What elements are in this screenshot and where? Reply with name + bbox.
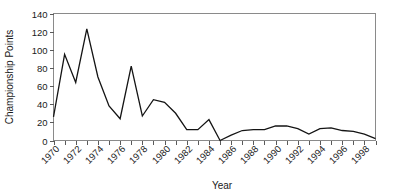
x-tick-label: 1988 [238,143,261,166]
x-tick-label: 1996 [327,143,350,166]
y-axis-title: Championship Points [4,30,15,125]
x-tick-label: 1984 [194,143,217,166]
x-tick-label: 1974 [83,143,106,166]
x-tick-label: 1994 [305,143,328,166]
y-tick-label: 20 [37,117,48,128]
y-tick-label: 100 [32,45,48,56]
x-tick-label: 1978 [127,143,150,166]
y-axis-tick-labels: 020406080100120140 [32,9,48,147]
x-tick-label: 1980 [150,143,173,166]
y-tick-label: 140 [32,9,48,20]
y-tick-label: 0 [42,136,47,147]
x-axis-title: Year [212,180,233,191]
line-chart: 020406080100120140 197019721974197619781… [0,0,399,196]
y-tick-label: 40 [37,99,48,110]
chart-container: 020406080100120140 197019721974197619781… [0,0,399,196]
x-tick-label: 1990 [261,143,284,166]
x-tick-label: 1998 [349,143,372,166]
x-tick-label: 1976 [105,143,128,166]
x-axis-tick-labels: 1970197219741976197819801982198419861988… [39,143,372,166]
data-series-line [54,29,376,141]
y-tick-label: 80 [37,63,48,74]
x-tick-label: 1982 [172,143,195,166]
x-tick-label: 1986 [216,143,239,166]
y-tick-label: 120 [32,27,48,38]
x-tick-label: 1972 [61,143,84,166]
plot-area-frame [54,14,376,141]
y-axis-tick-marks [50,15,54,142]
x-axis-tick-marks [55,141,377,145]
x-tick-label: 1992 [283,143,306,166]
y-tick-label: 60 [37,81,48,92]
